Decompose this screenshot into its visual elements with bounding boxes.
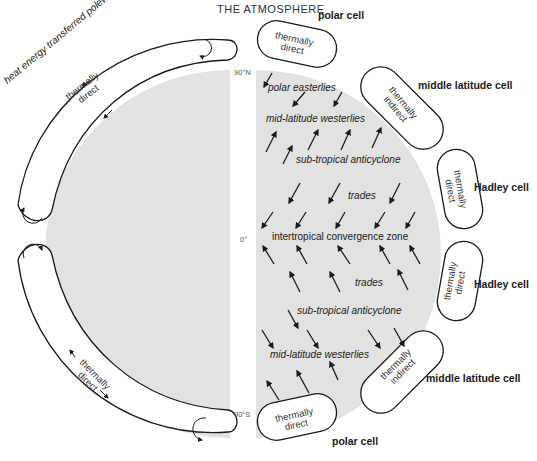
zone-subtropical-anticyclone-north: sub-tropical anticyclone	[296, 155, 401, 165]
north-hadley-cell-label: Hadley cell	[474, 182, 529, 193]
atmosphere-diagram	[0, 0, 537, 461]
label-equator: 0°	[240, 236, 247, 244]
zone-mid-latitude-westerlies-north: mid-latitude westerlies	[266, 114, 365, 124]
north-mid-latitude-cell-label: middle latitude cell	[418, 80, 513, 91]
label-90n: 90°N	[234, 69, 251, 77]
zone-trades-south: trades	[355, 278, 383, 288]
zone-mid-latitude-westerlies-south: mid-latitude westerlies	[270, 350, 369, 360]
label-90s: 90°S	[234, 411, 250, 419]
zone-itcz: intertropical convergence zone	[272, 232, 408, 242]
zone-trades-north: trades	[348, 191, 376, 201]
zone-polar-easterlies: polar easterlies	[268, 83, 336, 93]
south-polar-cell-label: polar cell	[332, 436, 378, 447]
south-hadley-cell-label: Hadley cell	[474, 279, 529, 290]
south-mid-latitude-cell-label: middle latitude cell	[426, 373, 521, 384]
diagram-title: THE ATMOSPHERE	[217, 4, 325, 15]
north-polar-cell-label: polar cell	[318, 10, 364, 21]
zone-subtropical-anticyclone-south: sub-tropical anticyclone	[297, 306, 402, 316]
